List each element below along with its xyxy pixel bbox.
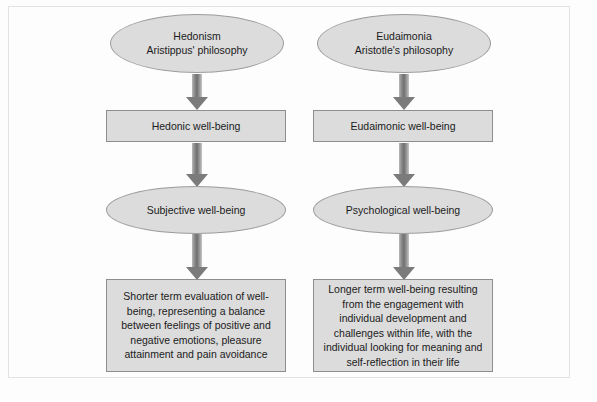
node-eudaimonic-well-being-label: Eudaimonic well-being (314, 120, 492, 133)
node-hedonic-well-being[interactable]: Hedonic well-being (106, 110, 286, 142)
arrow-eudaimonia-to-eudaimonic (393, 74, 415, 110)
node-subjective-well-being[interactable]: Subjective well-being (106, 186, 286, 234)
arrow-psychological-to-description (393, 234, 415, 280)
node-hedonism-label: Hedonism Aristippus' philosophy (111, 30, 283, 57)
node-hedonic-well-being-label: Hedonic well-being (107, 120, 285, 133)
node-hedonic-description-label: Shorter term evaluation of well-being, r… (107, 289, 285, 362)
node-eudaimonic-well-being[interactable]: Eudaimonic well-being (313, 110, 493, 142)
node-eudaimonia-label: Eudaimonia Aristotle's philosophy (318, 30, 490, 57)
arrow-hedonism-to-hedonic (186, 74, 208, 110)
node-hedonic-description[interactable]: Shorter term evaluation of well-being, r… (106, 279, 286, 372)
arrow-subjective-to-description (186, 234, 208, 280)
node-eudaimonic-description-label: Longer term well-being resulting from th… (314, 282, 492, 369)
node-eudaimonic-description[interactable]: Longer term well-being resulting from th… (313, 279, 493, 372)
node-eudaimonia[interactable]: Eudaimonia Aristotle's philosophy (317, 14, 491, 73)
node-psychological-well-being-label: Psychological well-being (314, 204, 492, 217)
node-subjective-well-being-label: Subjective well-being (107, 204, 285, 217)
node-hedonism[interactable]: Hedonism Aristippus' philosophy (110, 14, 284, 73)
arrow-hedonic-to-subjective (186, 143, 208, 187)
arrow-eudaimonic-to-psychological (393, 143, 415, 187)
diagram-canvas: Hedonism Aristippus' philosophy Hedonic … (0, 0, 597, 402)
node-psychological-well-being[interactable]: Psychological well-being (313, 186, 493, 234)
